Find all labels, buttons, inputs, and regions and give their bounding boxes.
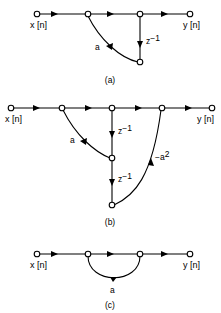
panel-b-node-3	[109, 105, 115, 111]
panel-a-node-2	[85, 11, 91, 17]
panel-c: x [n] y [n] a (c)	[30, 251, 200, 310]
panel-b-output-label: y [n]	[197, 114, 214, 124]
panel-b-delay2-arrow-icon	[109, 179, 115, 186]
signal-flow-graph-figure: x [n] y [n] a z−1 (a)	[0, 0, 221, 313]
panel-b-gain-a-label: a	[70, 135, 75, 145]
panel-a-gain-label: a	[95, 42, 100, 52]
panel-b: x [n] y [n] a z−1 z−1 −a2 (b)	[5, 105, 215, 227]
panel-a-input-label: x [n]	[30, 20, 47, 30]
panel-b-node-input	[8, 105, 14, 111]
panel-a-output-label: y [n]	[183, 20, 200, 30]
panel-b-input-label: x [n]	[5, 114, 22, 124]
panel-a-feedback-arrow-icon	[106, 43, 113, 50]
panel-c-gain-label: a	[110, 285, 115, 295]
panel-a-node-output	[187, 11, 193, 17]
panel-a-arrow-2-icon	[107, 11, 114, 17]
panel-b-feedback-a-path	[63, 110, 110, 158]
panel-a-caption: (a)	[105, 75, 116, 85]
panel-c-caption: (c)	[105, 300, 115, 310]
panel-c-node-2	[85, 251, 91, 257]
panel-b-node-delay2-out	[109, 202, 115, 208]
panel-b-node-4	[159, 105, 165, 111]
panel-c-arrow-3-icon	[161, 251, 168, 257]
panel-b-arrow-3-icon	[135, 105, 142, 111]
panel-c-output-label: y [n]	[183, 260, 200, 270]
panel-c-gain-arc-arrow-icon	[110, 277, 117, 282]
panel-c-arrow-1-icon	[51, 251, 58, 257]
panel-a-arrow-3-icon	[161, 11, 168, 17]
panel-b-arrow-2-icon	[85, 105, 92, 111]
panel-a-node-3	[137, 11, 143, 17]
panel-b-delay1-arrow-icon	[109, 131, 115, 138]
panel-a-node-delay-out	[137, 59, 143, 65]
panel-a-delay-arrow-icon	[137, 41, 143, 48]
panel-b-delay1-label: z−1	[118, 123, 132, 136]
panel-b-delay2-label: z−1	[118, 171, 132, 184]
panel-a-feedback-path	[88, 16, 138, 62]
panel-c-input-label: x [n]	[30, 260, 47, 270]
panel-c-node-3	[137, 251, 143, 257]
panel-b-node-delay1-out	[109, 155, 115, 161]
panel-b-arrow-4-icon	[185, 105, 192, 111]
panel-b-node-output	[209, 105, 215, 111]
panel-b-feedback-a2-arrow-icon	[148, 158, 154, 166]
panel-a-delay-label: z−1	[146, 33, 160, 46]
panel-c-node-output	[187, 251, 193, 257]
panel-a: x [n] y [n] a z−1 (a)	[30, 11, 200, 85]
panel-b-gain-a2-label: −a2	[155, 149, 170, 162]
panel-b-feedback-a2-path	[114, 110, 161, 205]
panel-c-node-input	[34, 251, 40, 257]
panel-b-arrow-1-icon	[33, 105, 40, 111]
panel-c-gain-arc-path	[88, 256, 140, 278]
figure-page: x [n] y [n] a z−1 (a)	[0, 0, 221, 313]
panel-a-arrow-1-icon	[51, 11, 58, 17]
panel-b-caption: (b)	[105, 217, 116, 227]
panel-c-arrow-2-icon	[107, 251, 114, 257]
panel-a-node-input	[34, 11, 40, 17]
panel-b-node-2	[59, 105, 65, 111]
